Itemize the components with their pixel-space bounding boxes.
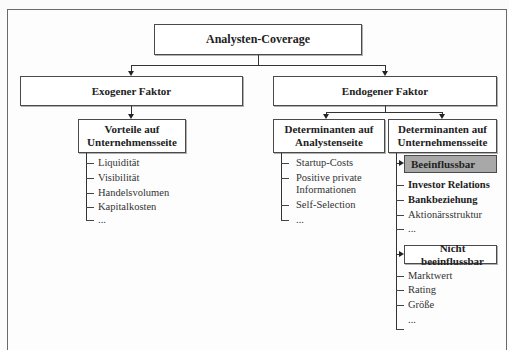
company-line2: Unternehmensseite: [398, 136, 488, 149]
beeinflussbar-label: Beeinflussbar: [411, 158, 475, 171]
list-tick: [281, 205, 289, 206]
list-item: Positive private: [296, 172, 362, 184]
list-item: ...: [296, 214, 304, 226]
list-item: Rating: [408, 284, 436, 296]
list-item: Startup-Costs: [296, 157, 353, 169]
list-item: Self-Selection: [296, 199, 355, 211]
list-tick: [86, 178, 94, 179]
determinanten-unternehmensseite-box: Determinanten auf Unternehmensseite: [388, 119, 497, 153]
nicht-beeinflussbar-box: Nicht beeinflussbar: [404, 245, 497, 264]
list-tick: [281, 163, 289, 164]
determinanten-analystenseite-box: Determinanten auf Analystenseite: [273, 119, 385, 153]
vorteile-line2: Unternehmensseite: [87, 136, 177, 149]
list-tick: [396, 185, 404, 186]
list-tick: [396, 290, 404, 291]
list-item: ...: [98, 214, 106, 226]
list-item: Marktwert: [408, 270, 452, 282]
list-item: Bankbeziehung: [408, 194, 477, 206]
analyst-line2: Analystenseite: [295, 136, 363, 149]
list-tick: [396, 215, 404, 216]
list-tick: [86, 207, 94, 208]
vorteile-line1: Vorteile auf: [105, 123, 160, 136]
list-tick: [281, 220, 289, 221]
list-tick: [396, 329, 404, 330]
list-tick: [396, 200, 404, 201]
endogener-faktor-label: Endogener Faktor: [342, 85, 428, 98]
list-item: Kapitalkosten: [98, 201, 156, 213]
root-label: Analysten-Coverage: [206, 33, 310, 47]
connector-exogen-down: [131, 106, 132, 114]
analyst-line1: Determinanten auf: [285, 123, 374, 136]
list-item: ...: [408, 223, 416, 235]
connector-level2-horizontal: [131, 65, 386, 66]
exogener-faktor-box: Exogener Faktor: [20, 76, 243, 106]
list-tick: [281, 178, 289, 179]
company-line1: Determinanten auf: [398, 123, 487, 136]
list-item: Visibilität: [98, 172, 139, 184]
list-tick: [86, 193, 94, 194]
list-item: Handelsvolumen: [98, 187, 169, 199]
connector-endogen-horizontal: [326, 112, 443, 113]
connector-root-down: [258, 55, 259, 65]
nicht-beeinflussbar-label: Nicht beeinflussbar: [409, 242, 496, 267]
list-tick: [396, 305, 404, 306]
list-tick: [396, 276, 404, 277]
list-item: Größe: [408, 299, 434, 311]
vorteile-unternehmensseite-box: Vorteile auf Unternehmensseite: [78, 119, 186, 153]
beeinflussbar-box: Beeinflussbar: [404, 155, 497, 173]
list-item: Investor Relations: [408, 179, 490, 191]
list-item: Informationen: [296, 184, 356, 196]
list-item: Liquidität: [98, 157, 139, 169]
endogener-faktor-box: Endogener Faktor: [273, 76, 497, 106]
list-tick: [86, 163, 94, 164]
exogener-faktor-label: Exogener Faktor: [92, 85, 172, 98]
company-list-spine: [396, 153, 397, 330]
list-tick: [86, 220, 94, 221]
root-box-analysten-coverage: Analysten-Coverage: [154, 24, 362, 55]
list-tick: [396, 229, 404, 230]
list-item: ...: [408, 314, 416, 326]
list-item: Aktionärsstruktur: [408, 209, 482, 221]
